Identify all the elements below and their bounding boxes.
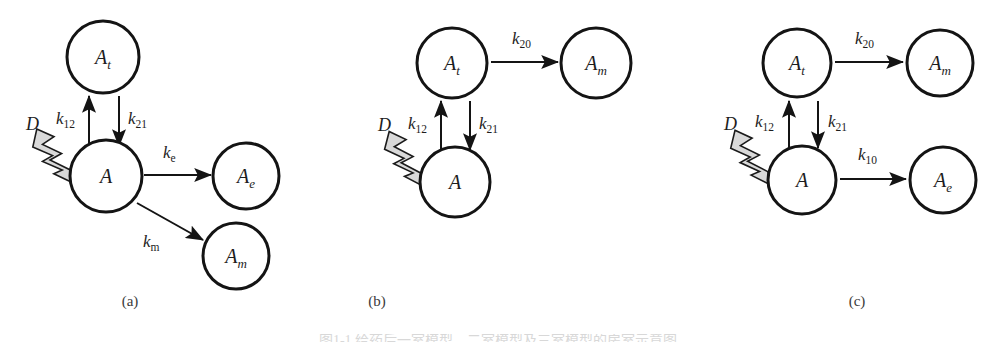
compartment-node-Am: Am	[203, 223, 269, 289]
rate-subscript: 21	[836, 121, 848, 133]
rate-constant-label-k10: k10	[858, 145, 877, 166]
rate-subscript: 10	[866, 154, 878, 166]
rate-subscript: 12	[763, 121, 775, 133]
figure-root: k12k21kekmDAtAAeAm(a)k20k12k21DAtAmA(b)k…	[0, 0, 996, 342]
compartment-node-Am: Am	[561, 28, 631, 98]
rate-subscript: e	[171, 152, 176, 164]
compartment-label: A	[98, 165, 113, 187]
rate-constant-label-km: km	[143, 232, 160, 253]
rate-subscript: m	[151, 241, 160, 253]
rate-constant-label-k12: k12	[56, 109, 75, 130]
compartment-subscript: m	[237, 256, 246, 271]
arrow-A-to-Am: km	[137, 203, 203, 253]
arrow-At-to-Am: k20	[835, 29, 903, 62]
compartment-node-Ae: Ae	[910, 147, 976, 213]
rate-constant-label-k20: k20	[512, 29, 531, 50]
compartment-subscript: e	[249, 176, 255, 191]
compartment-node-Am: Am	[907, 30, 973, 96]
arrow-At-to-A: k21	[119, 96, 147, 146]
panel-c: k20k12k21k10DAtAmAAe(c)	[723, 29, 976, 310]
dose-label: D	[377, 115, 391, 135]
panel-caption-a: (a)	[122, 293, 139, 310]
arrow-A-to-At: k12	[755, 101, 789, 148]
compartment-subscript: e	[946, 180, 952, 195]
panels-layer: k12k21kekmDAtAAeAm(a)k20k12k21DAtAmA(b)k…	[25, 21, 976, 310]
rate-subscript: 21	[487, 123, 499, 135]
compartment-model-diagram: k12k21kekmDAtAAeAm(a)k20k12k21DAtAmA(b)k…	[0, 0, 996, 342]
compartment-node-At: At	[67, 21, 139, 93]
compartment-label: A	[794, 169, 809, 191]
arrow-A-to-At: k12	[56, 96, 89, 146]
rate-subscript: 21	[136, 118, 148, 130]
panel-caption-b: (b)	[368, 293, 386, 310]
compartment-subscript: m	[597, 63, 606, 78]
arrow-A-to-Ae: k10	[840, 145, 906, 179]
compartment-node-At: At	[417, 28, 487, 98]
arrow-At-to-A: k21	[818, 101, 847, 148]
rate-constant-label-k12: k12	[408, 114, 427, 135]
rate-subscript: 12	[416, 123, 428, 135]
compartment-subscript: t	[801, 63, 805, 78]
arrow-A-to-At: k12	[408, 101, 441, 150]
panel-b: k20k12k21DAtAmA(b)	[368, 28, 631, 310]
compartment-node-A: A	[768, 146, 836, 214]
compartment-node-A: A	[70, 140, 142, 212]
rate-subscript: 12	[64, 118, 76, 130]
dose-label: D	[723, 114, 737, 134]
rate-constant-label-k21: k21	[828, 112, 847, 133]
rate-subscript: 20	[863, 38, 875, 50]
arrow-At-to-A: k21	[470, 101, 498, 150]
arrow-A-to-Ae: ke	[144, 143, 211, 175]
compartment-subscript: m	[941, 63, 950, 78]
figure-bottom-caption: 图1-1 给药后一室模型、二室模型及三室模型的房室示意图	[0, 334, 996, 342]
arrow-At-to-Am: k20	[491, 29, 558, 62]
panel-a: k12k21kekmDAtAAeAm(a)	[25, 21, 279, 310]
compartment-node-A: A	[420, 147, 490, 217]
rate-constant-label-ke: ke	[163, 143, 176, 164]
compartment-node-At: At	[763, 29, 831, 97]
dose-label: D	[25, 114, 39, 134]
rate-constant-label-k21: k21	[128, 109, 147, 130]
compartment-label: A	[447, 171, 462, 193]
rate-constant-label-k12: k12	[755, 112, 774, 133]
rate-constant-label-k20: k20	[855, 29, 874, 50]
rate-constant-label-k21: k21	[479, 114, 498, 135]
panel-caption-c: (c)	[849, 293, 866, 310]
compartment-subscript: t	[107, 57, 111, 72]
compartment-node-Ae: Ae	[213, 143, 279, 209]
rate-subscript: 20	[520, 38, 532, 50]
compartment-subscript: t	[456, 63, 460, 78]
